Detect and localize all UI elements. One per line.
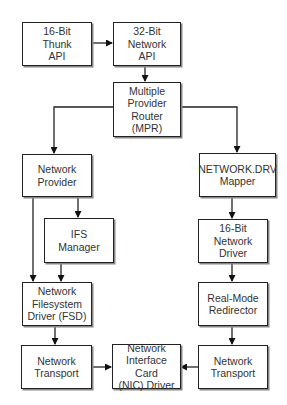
node-label: Network Transport: [211, 355, 256, 380]
node-ifs-manager: IFS Manager: [44, 218, 114, 263]
edge-mpr-netdrv: [180, 107, 237, 152]
node-label: NETWORK.DRV Mapper: [198, 163, 277, 188]
node-label: 16-Bit Network Driver: [201, 222, 265, 260]
node-nic-driver: Network Interface Card (NIC) Driver: [112, 344, 181, 389]
node-network-drv-mapper: NETWORK.DRV Mapper: [199, 153, 276, 197]
node-multiple-provider-router: Multiple Provider Router (MPR): [113, 82, 181, 137]
node-network-transport-left: Network Transport: [21, 345, 92, 389]
edge-mpr-provider: [54, 107, 113, 153]
node-32bit-network-api: 32-Bit Network API: [113, 22, 181, 66]
node-16bit-network-driver: 16-Bit Network Driver: [198, 219, 268, 263]
node-16bit-thunk-api: 16-Bit Thunk API: [22, 22, 92, 66]
node-label: Network Provider: [37, 163, 76, 188]
node-label: IFS Manager: [58, 228, 99, 253]
node-network-provider: Network Provider: [22, 154, 92, 197]
node-label: Real-Mode Redirector: [207, 292, 258, 317]
node-label: 32-Bit Network API: [128, 25, 167, 63]
node-label: Network Transport: [34, 355, 79, 380]
node-real-mode-redirector: Real-Mode Redirector: [198, 282, 268, 326]
node-label: Network Filesystem Driver (FSD): [28, 285, 87, 323]
node-label: Multiple Provider Router (MPR): [127, 85, 166, 135]
node-network-filesystem-driver: Network Filesystem Driver (FSD): [22, 282, 92, 326]
node-label: 16-Bit Thunk API: [42, 25, 71, 63]
node-label: Network Interface Card (NIC) Driver: [115, 342, 178, 392]
node-network-transport-right: Network Transport: [198, 345, 268, 389]
